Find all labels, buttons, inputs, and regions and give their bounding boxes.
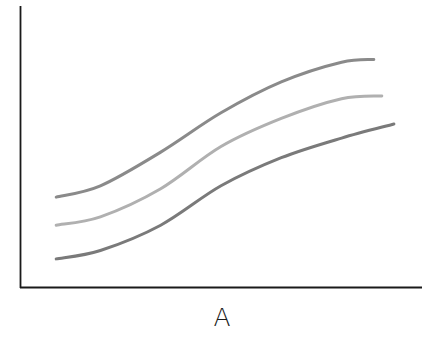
curve-upper: [56, 59, 374, 197]
x-axis-label: A: [0, 303, 444, 332]
series-layer: [56, 59, 394, 259]
chart-canvas: [0, 0, 444, 339]
